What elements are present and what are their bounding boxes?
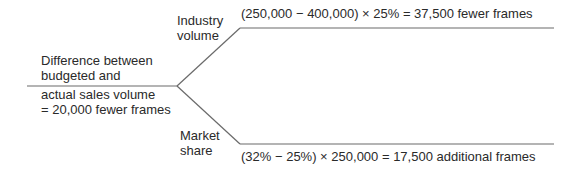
root-label-line2: budgeted and <box>41 68 121 84</box>
root-label-line1: Difference between <box>41 53 153 69</box>
market-share-formula: (32% − 25%) × 250,000 = 17,500 additiona… <box>241 149 536 165</box>
root-label-line4: = 20,000 fewer frames <box>41 102 171 118</box>
market-share-label-line1: Market <box>180 128 220 144</box>
industry-volume-formula: (250,000 − 400,000) × 25% = 37,500 fewer… <box>241 6 533 22</box>
industry-volume-label-line1: Industry <box>177 13 223 29</box>
market-share-label-line2: share <box>180 143 213 159</box>
industry-volume-label-line2: volume <box>177 28 219 44</box>
root-label-line3: actual sales volume <box>41 87 155 103</box>
tree-lines <box>0 0 582 172</box>
